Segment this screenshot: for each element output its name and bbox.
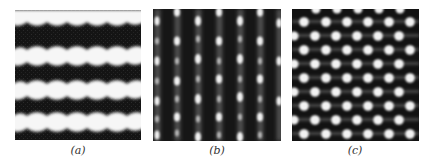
wavy-bands-pattern bbox=[15, 10, 141, 140]
panel-b-image bbox=[153, 9, 281, 141]
dot-lattice-pattern bbox=[292, 9, 419, 141]
caption-a: (a) bbox=[58, 144, 98, 157]
caption-b: (b) bbox=[197, 144, 237, 157]
vertical-stripes-pattern bbox=[153, 9, 281, 141]
caption-c: (c) bbox=[335, 144, 375, 157]
panel-a-image bbox=[15, 10, 141, 140]
panel-c-image bbox=[292, 9, 419, 141]
